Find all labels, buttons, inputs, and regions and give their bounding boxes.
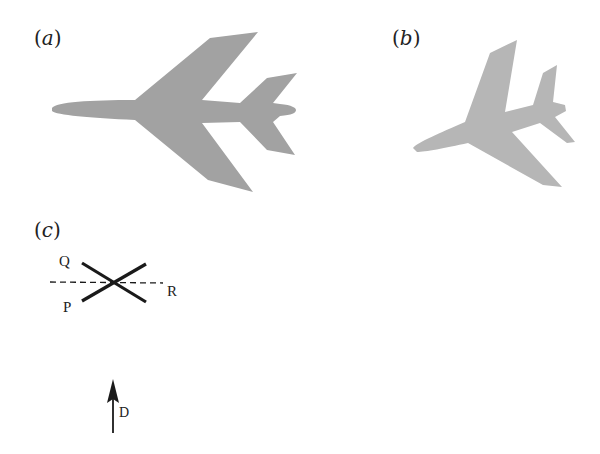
panel-letter: c [42, 218, 53, 242]
panel-label-c: (c) [34, 220, 61, 240]
label-d: D [119, 406, 129, 420]
panel-label-a: (a) [34, 28, 62, 48]
figure-graphics [0, 0, 600, 454]
reference-dashed-line [50, 282, 163, 283]
figure: (a) (b) (c) Q P R D [0, 0, 600, 454]
label-q: Q [59, 254, 70, 269]
label-r: R [167, 284, 177, 299]
paren-open: ( [34, 218, 42, 242]
paren-open: ( [34, 26, 42, 50]
airplane-b-icon [413, 40, 575, 187]
paren-close: ) [53, 218, 61, 242]
direction-arrow-icon [107, 379, 119, 433]
paren-close: ) [413, 26, 421, 50]
panel-letter: b [400, 26, 413, 50]
panel-label-b: (b) [392, 28, 420, 48]
label-p: P [63, 300, 71, 315]
paren-close: ) [54, 26, 62, 50]
airplane-a-icon [52, 32, 297, 192]
panel-letter: a [42, 26, 54, 50]
paren-open: ( [392, 26, 400, 50]
